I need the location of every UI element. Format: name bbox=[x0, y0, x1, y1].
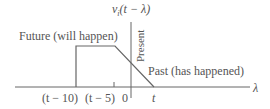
y-axis-label: vi(t − λ) bbox=[112, 3, 150, 18]
x-axis-label: λ bbox=[253, 82, 258, 94]
tick-label-t-minus-5: (t − 5) bbox=[85, 92, 115, 104]
tick-label-zero: 0 bbox=[122, 92, 128, 104]
present-label: Present bbox=[135, 30, 146, 62]
future-label: Future (will happen) bbox=[19, 30, 118, 42]
past-label: Past (has happened) bbox=[148, 65, 244, 77]
tick-label-t: t bbox=[152, 92, 155, 104]
tick-label-t-minus-10: (t − 10) bbox=[42, 92, 78, 104]
